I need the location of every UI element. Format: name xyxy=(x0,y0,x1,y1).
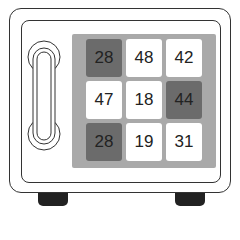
grid-cell-r1c1[interactable]: 28 xyxy=(86,39,122,77)
safe-handle-icon[interactable] xyxy=(26,40,66,152)
grid-cell-r2c1[interactable]: 47 xyxy=(86,81,122,119)
grid-cell-r2c2[interactable]: 18 xyxy=(126,81,162,119)
grid-cell-r3c1[interactable]: 28 xyxy=(86,123,122,161)
grid-cell-r3c3[interactable]: 31 xyxy=(166,123,202,161)
safe-foot-left xyxy=(38,193,68,206)
grid-cell-r2c3[interactable]: 44 xyxy=(166,81,202,119)
grid-cell-r3c2[interactable]: 19 xyxy=(126,123,162,161)
grid-cell-r1c2[interactable]: 48 xyxy=(126,39,162,77)
grid-cell-r1c3[interactable]: 42 xyxy=(166,39,202,77)
safe-foot-right xyxy=(175,193,205,206)
